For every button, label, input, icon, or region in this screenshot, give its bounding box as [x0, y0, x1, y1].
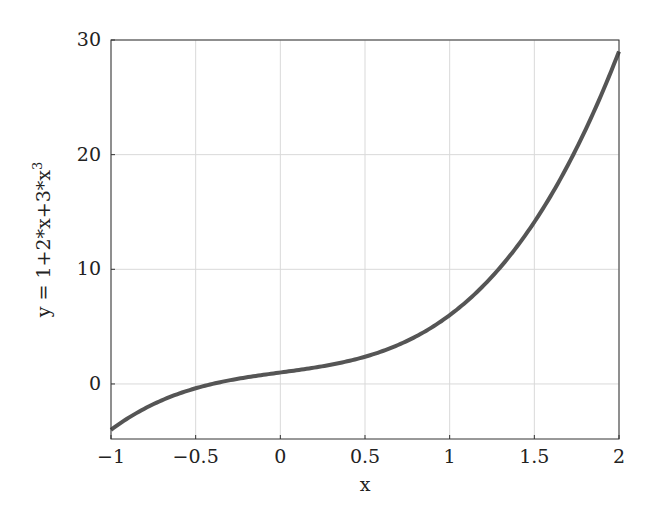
x-axis-ticks: −1−0.500.511.52: [97, 435, 625, 467]
x-tick-label: −0.5: [173, 445, 219, 467]
y-tick-label: 0: [89, 372, 101, 394]
y-axis-label-exponent: 3: [30, 162, 45, 170]
y-axis-ticks: 0102030: [77, 28, 115, 394]
x-tick-label: 0: [274, 445, 286, 467]
grid-lines: [111, 40, 619, 439]
x-tick-label: −1: [97, 445, 125, 467]
x-tick-label: 1: [444, 445, 456, 467]
x-tick-label: 0.5: [350, 445, 380, 467]
y-tick-label: 20: [77, 143, 101, 165]
x-axis-label: x: [360, 473, 371, 495]
chart-canvas: −1−0.500.511.52 0102030 x y = 1+2*x+3*x3: [0, 0, 653, 514]
y-axis-label: y = 1+2*x+3*x3: [30, 162, 54, 319]
y-axis-label-base: y = 1+2*x+3*x: [32, 170, 54, 319]
y-tick-label: 30: [77, 28, 101, 50]
y-tick-label: 10: [77, 257, 101, 279]
x-tick-label: 1.5: [519, 445, 549, 467]
x-tick-label: 2: [613, 445, 625, 467]
